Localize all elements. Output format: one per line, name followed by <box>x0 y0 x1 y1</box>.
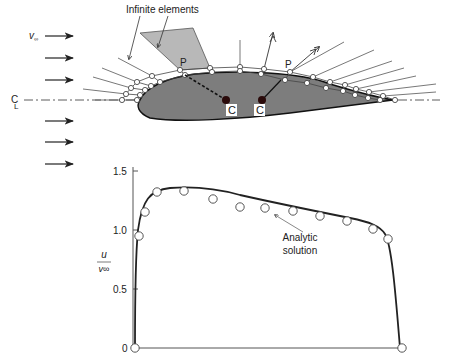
point-c-right-label: C <box>256 104 264 116</box>
v-infinity-label: v∞ <box>29 30 38 42</box>
y-axis-label-numerator: u <box>101 249 107 260</box>
velocity-chart: 1.5 1.0 0.5 0 u v∞ Analytic solution <box>97 166 406 354</box>
point-c-left-marker <box>222 96 230 104</box>
y-axis-label-denominator: v∞ <box>99 264 110 274</box>
infinite-element-region <box>140 28 210 70</box>
y-tick-label-1.0: 1.0 <box>113 225 127 236</box>
y-tick-label-0: 0 <box>122 343 128 354</box>
airfoil-diagram: v∞ C L <box>11 4 440 164</box>
centerline-label-sub: L <box>14 102 19 111</box>
point-p-right-label: P <box>285 59 292 70</box>
figure-canvas: v∞ C L <box>0 0 451 362</box>
y-tick-label-0.5: 0.5 <box>113 284 127 295</box>
numerical-data-points <box>131 187 406 352</box>
infinite-elements-pointer-1 <box>129 16 140 59</box>
annotation-line-1: Analytic <box>282 232 317 243</box>
y-tick-label-1.5: 1.5 <box>113 166 127 177</box>
annotation-line-2: solution <box>283 245 317 256</box>
point-c-left-label: C <box>228 104 236 116</box>
point-p-left-label: P <box>180 57 187 68</box>
infinite-elements-label: Infinite elements <box>126 4 199 15</box>
point-c-right-marker <box>258 96 266 104</box>
annotation-pointer <box>275 215 303 232</box>
